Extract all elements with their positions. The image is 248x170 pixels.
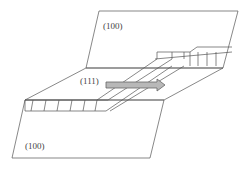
label-top-plane: (100) bbox=[103, 21, 123, 31]
label-middle-plane: (111) bbox=[80, 76, 99, 86]
top-plane bbox=[86, 11, 238, 68]
lower-step-ledges bbox=[25, 100, 108, 111]
arrow-icon bbox=[106, 79, 165, 91]
crystal-plane-diagram: (100) (111) (100) bbox=[0, 0, 248, 170]
label-bottom-plane: (100) bbox=[25, 141, 45, 151]
upper-step-ledges bbox=[155, 47, 232, 66]
